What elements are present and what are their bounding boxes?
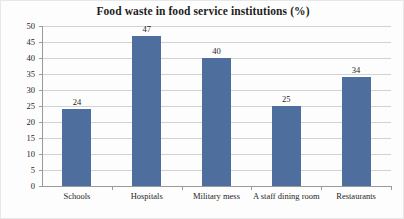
x-axis-tick-mark [251, 186, 252, 190]
y-axis-tick-label: 0 [1, 182, 35, 191]
x-axis-tick-mark [391, 186, 392, 190]
bar-value-label: 24 [52, 98, 102, 107]
y-axis-tick-label: 20 [1, 118, 35, 127]
y-axis-tick-label: 45 [1, 38, 35, 47]
bar[interactable] [342, 77, 371, 186]
y-axis-tick-label: 5 [1, 166, 35, 175]
chart-container: Food waste in food service institutions … [0, 0, 404, 219]
x-axis-tick-mark [112, 186, 113, 190]
x-axis-category-label: Schools [42, 192, 112, 201]
x-axis-category-label: Hospitals [112, 192, 182, 201]
bar-value-label: 34 [331, 66, 381, 75]
y-axis-tick-label: 25 [1, 102, 35, 111]
bar[interactable] [272, 106, 301, 186]
y-axis-tick-label: 10 [1, 150, 35, 159]
bar-value-label: 47 [122, 25, 172, 34]
x-axis-line [42, 186, 391, 187]
x-axis-category-label: A staff dining room [251, 192, 321, 201]
chart-title: Food waste in food service institutions … [1, 5, 404, 17]
bar-value-label: 40 [192, 47, 242, 56]
bar[interactable] [62, 109, 91, 186]
x-axis-tick-mark [321, 186, 322, 190]
x-axis-category-label: Military mess [182, 192, 252, 201]
y-axis-tick-label: 15 [1, 134, 35, 143]
bar[interactable] [132, 36, 161, 186]
y-axis-tick-label: 30 [1, 86, 35, 95]
bar[interactable] [202, 58, 231, 186]
y-axis-tick-label: 50 [1, 22, 35, 31]
y-axis-tick-label: 35 [1, 70, 35, 79]
bar-value-label: 25 [261, 95, 311, 104]
x-axis-category-label: Restaurants [321, 192, 391, 201]
x-axis-tick-mark [182, 186, 183, 190]
y-axis-tick-label: 40 [1, 54, 35, 63]
